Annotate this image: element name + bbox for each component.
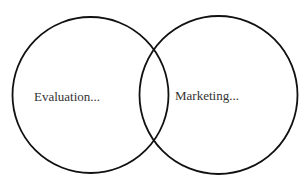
venn-diagram: Evaluation... Marketing...	[0, 0, 304, 181]
label-marketing: Marketing...	[175, 88, 239, 103]
label-evaluation: Evaluation...	[34, 89, 100, 104]
